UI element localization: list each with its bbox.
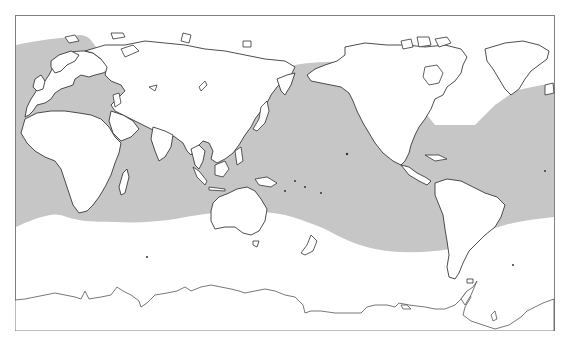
land-falklands bbox=[467, 279, 473, 283]
island-atlantic-1 bbox=[544, 170, 546, 172]
land-severnaya-zemlya bbox=[181, 33, 191, 43]
land-new-siberian-islands bbox=[243, 41, 251, 47]
island-kerguelen bbox=[146, 256, 148, 258]
island-hawaii bbox=[346, 153, 348, 155]
world-map bbox=[15, 15, 555, 331]
island-pacific-3 bbox=[320, 192, 322, 194]
map-canvas bbox=[15, 15, 555, 331]
island-pacific-4 bbox=[284, 190, 286, 192]
island-south-georgia bbox=[512, 264, 514, 266]
land-canadian-islands-2 bbox=[417, 37, 431, 47]
island-pacific-1 bbox=[294, 180, 296, 182]
island-pacific-2 bbox=[304, 186, 306, 188]
land-iceland bbox=[545, 83, 554, 95]
land-canadian-islands-1 bbox=[401, 39, 413, 49]
